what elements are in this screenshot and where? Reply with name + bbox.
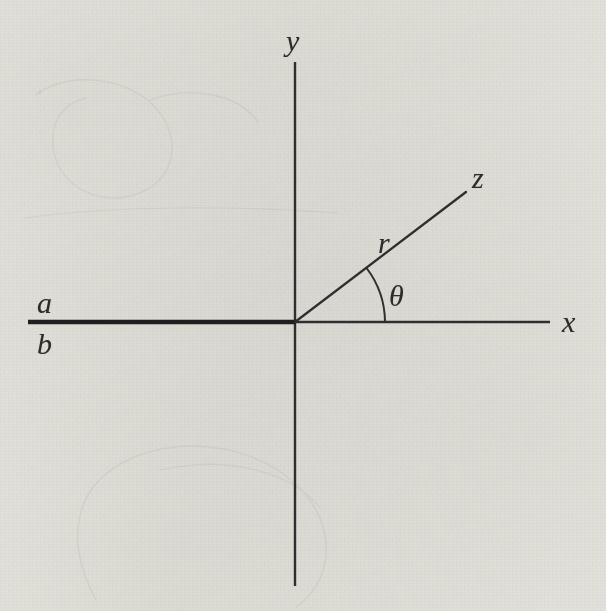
diagram-canvas: y x z r θ a b (0, 0, 606, 611)
segment-label-b: b (37, 329, 52, 359)
axis-label-x: x (562, 307, 575, 337)
angle-arc-theta (367, 269, 385, 323)
segment-label-a: a (37, 288, 52, 318)
angle-label-theta: θ (389, 281, 404, 311)
radius-label-r: r (378, 228, 390, 258)
show-through-marks (24, 80, 338, 607)
axis-label-y: y (286, 26, 299, 56)
polar-coordinate-figure (0, 0, 606, 611)
ray-label-z: z (472, 163, 484, 193)
